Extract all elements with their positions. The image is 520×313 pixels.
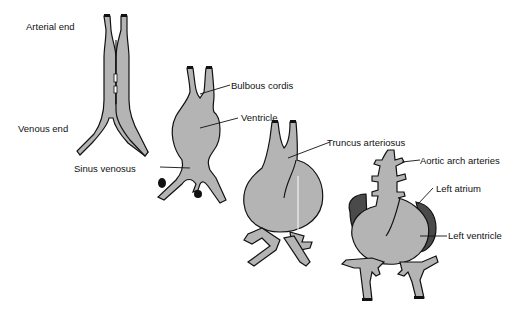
stage-1-heart-tube (77, 14, 148, 156)
label-truncus-arteriosus: Truncus arteriosus (327, 138, 405, 148)
stage-2-heart-tube (158, 66, 226, 203)
label-aortic-arch-arteries: Aortic arch arteries (420, 156, 500, 166)
label-venous-end: Venous end (18, 124, 68, 134)
label-sinus-venosus: Sinus venosus (74, 164, 136, 174)
stage-3-heart (244, 120, 323, 266)
label-left-ventricle: Left ventricle (448, 231, 502, 241)
stage-4-heart (342, 150, 438, 301)
label-ventricle: Ventricle (241, 113, 277, 123)
label-arterial-end: Arterial end (26, 22, 75, 32)
label-left-atrium: Left atrium (436, 184, 481, 194)
label-bulbous-cordis: Bulbous cordis (231, 81, 293, 91)
